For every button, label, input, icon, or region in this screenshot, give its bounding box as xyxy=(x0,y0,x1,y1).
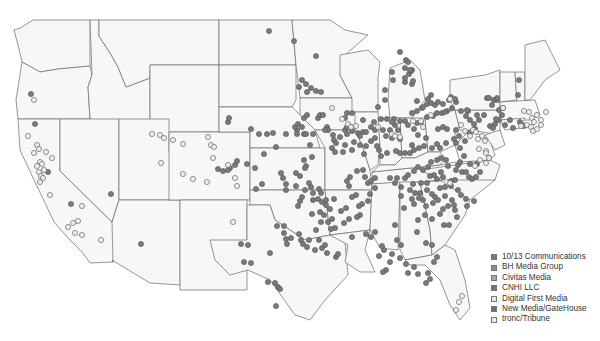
newspaper-dot xyxy=(238,241,243,246)
newspaper-dot xyxy=(79,203,84,208)
newspaper-dot xyxy=(344,110,349,115)
newspaper-dot xyxy=(420,104,425,109)
newspaper-dot xyxy=(75,218,80,223)
newspaper-dot xyxy=(41,167,46,172)
newspaper-dot xyxy=(397,255,402,260)
newspaper-dot xyxy=(363,129,368,134)
newspaper-dot xyxy=(264,131,269,136)
newspaper-dot xyxy=(318,89,323,94)
newspaper-dot xyxy=(402,150,407,155)
newspaper-dot xyxy=(405,122,410,127)
newspaper-dot xyxy=(423,203,428,208)
legend-swatch xyxy=(491,254,497,260)
newspaper-dot xyxy=(434,176,439,181)
newspaper-dot xyxy=(360,117,365,122)
newspaper-dot xyxy=(476,146,481,151)
newspaper-dot xyxy=(322,127,327,132)
newspaper-dot xyxy=(266,28,271,33)
newspaper-dot xyxy=(457,159,462,164)
newspaper-dot xyxy=(380,269,385,274)
newspaper-dot xyxy=(494,95,499,100)
newspaper-dot xyxy=(401,205,406,210)
legend-label: BH Media Group xyxy=(502,262,563,272)
newspaper-dot xyxy=(393,148,398,153)
newspaper-dot xyxy=(416,145,421,150)
newspaper-dot xyxy=(387,175,392,180)
newspaper-dot xyxy=(515,92,520,97)
newspaper-dot xyxy=(418,118,423,123)
newspaper-dot xyxy=(410,78,415,83)
newspaper-dot xyxy=(190,176,195,181)
newspaper-dot xyxy=(395,127,400,132)
newspaper-dot xyxy=(343,205,348,210)
newspaper-dot xyxy=(349,234,354,239)
newspaper-dot xyxy=(420,167,425,172)
newspaper-dot xyxy=(409,196,414,201)
newspaper-dot xyxy=(483,150,488,155)
newspaper-dot xyxy=(313,88,318,93)
newspaper-dot xyxy=(428,159,433,164)
newspaper-dot xyxy=(481,112,486,117)
newspaper-dot xyxy=(349,194,354,199)
newspaper-dot xyxy=(331,196,336,201)
newspaper-dot xyxy=(349,110,354,115)
newspaper-dot xyxy=(422,212,427,217)
newspaper-dot xyxy=(306,237,311,242)
newspaper-dot xyxy=(454,214,459,219)
newspaper-dot xyxy=(283,131,288,136)
newspaper-dot xyxy=(302,187,307,192)
newspaper-dot xyxy=(467,133,472,138)
newspaper-dot xyxy=(245,242,250,247)
newspaper-dot xyxy=(473,174,478,179)
newspaper-dot xyxy=(367,191,372,196)
newspaper-dot xyxy=(180,141,185,146)
newspaper-dot xyxy=(414,229,419,234)
legend-label: CNHI LLC xyxy=(502,283,539,293)
newspaper-dot xyxy=(407,187,412,192)
newspaper-dot xyxy=(392,222,397,227)
newspaper-dot xyxy=(462,128,467,133)
newspaper-dot xyxy=(348,124,353,129)
newspaper-dot xyxy=(313,53,318,58)
newspaper-dot xyxy=(344,131,349,136)
newspaper-dot xyxy=(232,175,237,180)
legend-item-digital-first: Digital First Media xyxy=(491,294,587,304)
newspaper-dot xyxy=(295,203,300,208)
newspaper-dot xyxy=(283,187,288,192)
legend-swatch xyxy=(491,306,497,312)
newspaper-dot xyxy=(273,144,278,149)
newspaper-dot xyxy=(403,261,408,266)
newspaper-dot xyxy=(397,49,402,54)
newspaper-dot xyxy=(347,174,352,179)
newspaper-dot xyxy=(296,231,301,236)
newspaper-dot xyxy=(31,150,36,155)
newspaper-dot xyxy=(446,222,451,227)
newspaper-dot xyxy=(431,259,436,264)
newspaper-dot xyxy=(429,242,434,247)
newspaper-dot xyxy=(453,127,458,132)
newspaper-dot xyxy=(452,207,457,212)
newspaper-dot xyxy=(405,59,410,64)
newspaper-dot xyxy=(309,154,314,159)
newspaper-dot xyxy=(72,230,77,235)
newspaper-dot xyxy=(415,271,420,276)
newspaper-dot xyxy=(414,98,419,103)
newspaper-dot xyxy=(430,200,435,205)
newspaper-dot xyxy=(309,211,314,216)
newspaper-dot xyxy=(312,247,317,252)
newspaper-dot xyxy=(521,108,526,113)
newspaper-dot xyxy=(349,147,354,152)
newspaper-dot xyxy=(434,254,439,259)
newspaper-dot xyxy=(409,142,414,147)
newspaper-dot xyxy=(270,130,275,135)
newspaper-dot xyxy=(280,175,285,180)
newspaper-dot xyxy=(363,231,368,236)
newspaper-dot xyxy=(394,237,399,242)
newspaper-dot xyxy=(241,259,246,264)
newspaper-dot xyxy=(322,242,327,247)
newspaper-dot xyxy=(489,102,494,107)
legend-label: Civitas Media xyxy=(502,273,551,283)
newspaper-dot xyxy=(398,242,403,247)
newspaper-dot xyxy=(34,163,39,168)
newspaper-dot xyxy=(458,108,463,113)
